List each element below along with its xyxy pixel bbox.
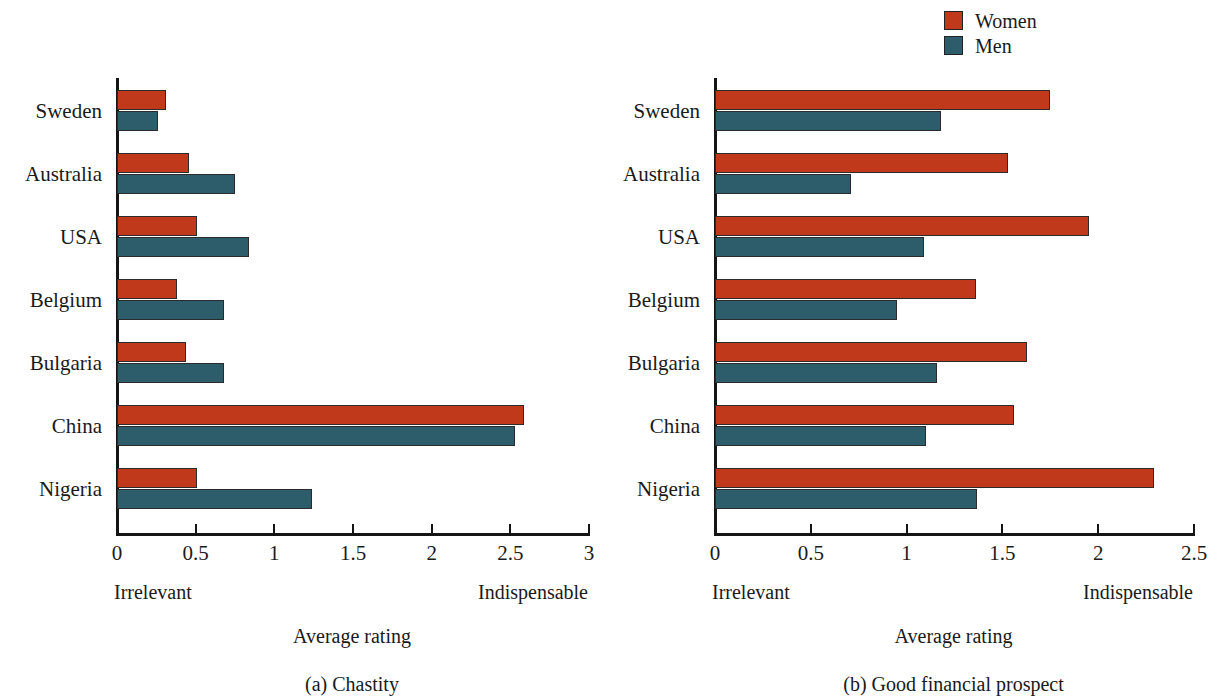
bar-women [117, 342, 186, 362]
category-label: China [490, 413, 700, 438]
bar-men [715, 237, 924, 257]
bar-men [715, 174, 851, 194]
x-axis-tick-label: 0 [710, 541, 721, 566]
bar-men [117, 426, 515, 446]
bar-women [715, 279, 976, 299]
scale-high-label: Indispensable [478, 581, 588, 604]
bar-men [715, 426, 926, 446]
legend-item-men: Men [944, 33, 1144, 58]
x-axis-tick [431, 524, 433, 533]
category-label: Bulgaria [490, 350, 700, 375]
bar-men [117, 300, 224, 320]
bar-women [715, 153, 1008, 173]
x-axis-tick [273, 524, 275, 533]
x-axis-tick [509, 524, 511, 533]
x-axis-tick [352, 524, 354, 533]
category-label: Nigeria [490, 476, 700, 501]
bar-women [117, 153, 189, 173]
x-axis-tick-label: 0.5 [798, 541, 824, 566]
x-axis-title: Average rating [293, 625, 411, 648]
bar-men [117, 489, 312, 509]
bar-men [715, 363, 937, 383]
x-axis-tick-label: 0 [112, 541, 123, 566]
category-label: Nigeria [0, 476, 102, 501]
legend-swatch-icon-women [944, 11, 963, 30]
category-label: Belgium [490, 287, 700, 312]
x-axis-tick-label: 2.5 [497, 541, 523, 566]
category-label: Sweden [0, 98, 102, 123]
category-label: Sweden [490, 98, 700, 123]
x-axis-tick-label: 2 [1093, 541, 1104, 566]
category-label: Australia [0, 161, 102, 186]
scale-low-label: Irrelevant [712, 581, 790, 604]
x-axis-tick-label: 1 [269, 541, 280, 566]
x-axis-title: Average rating [895, 625, 1013, 648]
x-axis-tick [195, 524, 197, 533]
x-axis-tick-label: 3 [584, 541, 595, 566]
x-axis-tick-label: 1 [901, 541, 912, 566]
scale-low-label: Irrelevant [114, 581, 192, 604]
bar-men [117, 363, 224, 383]
x-axis-line [116, 533, 590, 536]
bar-men [117, 237, 249, 257]
bar-women [715, 216, 1089, 236]
x-axis-tick [588, 524, 590, 533]
bar-women [117, 216, 197, 236]
x-axis-tick-label: 2 [426, 541, 437, 566]
category-label: USA [0, 224, 102, 249]
panel-caption: (b) Good financial prospect [843, 673, 1063, 696]
legend-item-women: Women [944, 8, 1144, 33]
bar-women [715, 405, 1014, 425]
x-axis-tick [1001, 524, 1003, 533]
bar-men [715, 489, 977, 509]
bar-men [117, 174, 235, 194]
x-axis-tick-label: 0.5 [183, 541, 209, 566]
bar-women [715, 468, 1154, 488]
category-label: Australia [490, 161, 700, 186]
category-label: USA [490, 224, 700, 249]
bar-men [715, 111, 941, 131]
x-axis-tick [906, 524, 908, 533]
category-label: Belgium [0, 287, 102, 312]
x-axis-tick [1193, 524, 1195, 533]
bar-women [117, 468, 197, 488]
chart-legend: Women Men [944, 8, 1144, 58]
bar-men [117, 111, 158, 131]
x-axis-tick [116, 524, 118, 533]
scale-high-label: Indispensable [1083, 581, 1193, 604]
x-axis-line [714, 533, 1195, 536]
x-axis-tick [1097, 524, 1099, 533]
bar-women [715, 342, 1027, 362]
legend-label-women: Women [975, 11, 1037, 31]
bar-women [117, 405, 524, 425]
bar-women [117, 279, 177, 299]
legend-label-men: Men [975, 36, 1012, 56]
legend-swatch-icon-men [944, 36, 963, 55]
x-axis-tick-label: 1.5 [340, 541, 366, 566]
panel-caption: (a) Chastity [305, 673, 399, 696]
bar-women [715, 90, 1050, 110]
category-label: Bulgaria [0, 350, 102, 375]
bar-men [715, 300, 897, 320]
category-label: China [0, 413, 102, 438]
x-axis-tick [810, 524, 812, 533]
x-axis-tick [714, 524, 716, 533]
x-axis-tick-label: 2.5 [1181, 541, 1207, 566]
x-axis-tick-label: 1.5 [989, 541, 1015, 566]
bar-women [117, 90, 166, 110]
